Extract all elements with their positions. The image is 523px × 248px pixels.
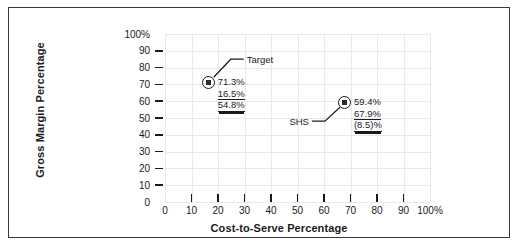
callout-label-shs: SHS (289, 116, 309, 127)
callout-leader-shs (9, 8, 511, 239)
figure-border: Gross Margin Percentage Cost-to-Serve Pe… (8, 7, 510, 238)
leader-line (312, 107, 340, 121)
chart-figure: Gross Margin Percentage Cost-to-Serve Pe… (0, 0, 523, 248)
